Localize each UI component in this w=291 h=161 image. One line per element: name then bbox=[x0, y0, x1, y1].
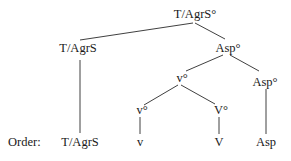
node-v-little: v° bbox=[136, 103, 147, 117]
edge-root-tagrs bbox=[80, 23, 193, 40]
edge-vhead-v bbox=[144, 85, 178, 105]
edge-root-asp bbox=[195, 23, 225, 39]
tree-edges bbox=[80, 23, 266, 134]
order-item-asp: Asp bbox=[256, 135, 276, 149]
order-label: Order: bbox=[8, 135, 41, 149]
node-asp-bar: Asp° bbox=[215, 41, 240, 55]
edge-vhead-V bbox=[181, 85, 215, 104]
node-asp-head: Asp° bbox=[252, 75, 277, 89]
node-root: T/AgrS° bbox=[174, 7, 217, 21]
edge-asp-vhead bbox=[186, 55, 223, 71]
node-v-head: v° bbox=[176, 71, 187, 85]
node-V-big: V° bbox=[214, 103, 228, 117]
node-t-agrs: T/AgrS bbox=[59, 41, 97, 55]
edge-asp-asphead bbox=[230, 55, 259, 71]
order-row: Order: T/AgrS v V Asp bbox=[8, 135, 276, 149]
order-item-tagrs: T/AgrS bbox=[61, 135, 99, 149]
syntax-tree-diagram: T/AgrS° T/AgrS Asp° v° Asp° v° V° Order:… bbox=[0, 0, 291, 161]
order-item-v: v bbox=[137, 135, 144, 149]
order-item-V: V bbox=[214, 135, 223, 149]
